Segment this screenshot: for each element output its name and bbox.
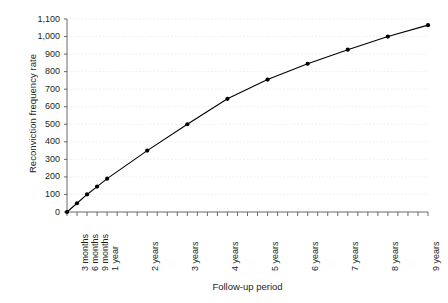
x-tick-label: 5 years: [271, 241, 280, 271]
x-tick-label: 6 months: [91, 234, 100, 271]
x-tick-label: 3 months: [81, 234, 90, 271]
x-tick-label: 7 years: [351, 241, 360, 271]
x-axis-title: Follow-up period: [67, 281, 428, 292]
x-axis-tick-labels: 3 months6 months9 months1 year2 years3 y…: [0, 0, 448, 303]
x-tick-label: 9 months: [101, 234, 110, 271]
x-tick-label: 1 year: [111, 246, 120, 271]
x-tick-label: 2 years: [151, 241, 160, 271]
chart-figure: Reconviction frequency rate 010020030040…: [0, 0, 448, 303]
x-tick-label: 6 years: [311, 241, 320, 271]
x-tick-label: 8 years: [391, 241, 400, 271]
x-tick-label: 3 years: [191, 241, 200, 271]
x-tick-label: 4 years: [231, 241, 240, 271]
x-tick-label: 9 years: [432, 241, 441, 271]
